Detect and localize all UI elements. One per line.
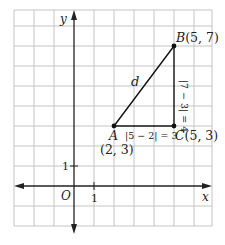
horizontal-leg-label: |5 − 2| = 3 [125, 130, 178, 142]
point-B-label: B(5, 7) [175, 30, 219, 45]
y-tick-label: 1 [62, 160, 69, 173]
origin-label: O [61, 189, 71, 203]
point-A-name: A [108, 128, 118, 143]
vertical-leg-label: |7 − 3| = 4 [178, 80, 190, 133]
y-axis-up-arrow-icon [71, 10, 77, 20]
y-axis-label: y [59, 12, 67, 26]
y-axis [71, 10, 77, 234]
x-axis-label: x [202, 190, 209, 204]
hypotenuse-label: d [131, 74, 139, 89]
y-axis-down-arrow-icon [71, 224, 77, 234]
x-axis-left-arrow-icon [14, 183, 24, 189]
x-tick-label: 1 [91, 192, 98, 205]
distance-diagram: y x O 1 1 B(5, 7) C(5, 3) A (2, 3) d |5 … [0, 0, 225, 245]
x-axis-right-arrow-icon [202, 183, 212, 189]
point-A-coords: (2, 3) [100, 142, 134, 157]
x-axis [14, 183, 212, 189]
